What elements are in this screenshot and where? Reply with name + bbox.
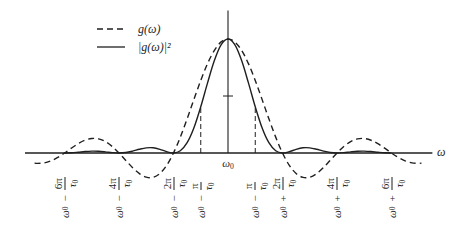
numerator: 6π [52, 177, 65, 190]
fraction: πτ0 [243, 182, 268, 190]
x-tick-label-text: ω0 − 2πτ0 [161, 177, 186, 218]
x-tick-label-text: ω0 − πτ0 [243, 182, 268, 218]
fraction: πτ0 [188, 182, 213, 190]
operator: + [332, 195, 343, 201]
tau-symbol: τ [392, 184, 404, 188]
numerator: π [243, 182, 256, 190]
x-tick-label-text: ω0 + 6πτ0 [379, 177, 404, 218]
tau-symbol: τ [338, 184, 350, 188]
omega-symbol: ω [386, 210, 397, 218]
numerator: 2π [161, 177, 174, 190]
legend-label-g: g(ω) [138, 22, 160, 36]
operator: − [114, 195, 125, 201]
denominator: τ0 [256, 182, 268, 190]
tau-symbol: τ [283, 184, 295, 188]
numerator: 6π [379, 177, 392, 190]
subscript: 0 [343, 180, 352, 184]
omega-symbol: ω [222, 157, 230, 169]
denominator: τ0 [65, 180, 77, 188]
x-tick-label-text: ω0 − 6πτ0 [52, 177, 77, 218]
numerator: 2π [270, 177, 283, 190]
omega-symbol: ω [114, 210, 125, 218]
omega-symbol: ω [195, 210, 206, 218]
tau-symbol: τ [256, 186, 268, 190]
tau-symbol: τ [201, 186, 213, 190]
fraction: 6πτ0 [52, 177, 77, 190]
omega-symbol: ω [332, 210, 343, 218]
operator: + [277, 195, 288, 201]
denominator: τ0 [174, 180, 186, 188]
figure: g(ω) |g(ω)|² ω ω0 ω0 − 6πτ0 ω0 − 4πτ0 ω0… [0, 0, 464, 231]
tau-symbol: τ [174, 184, 186, 188]
omega-symbol: ω [168, 210, 179, 218]
x-axis-label: ω [437, 146, 445, 158]
omega-symbol: ω [59, 210, 70, 218]
fraction: 4πτ0 [107, 177, 132, 190]
subscript: 0 [230, 162, 234, 171]
operator: − [250, 195, 261, 201]
omega-symbol: ω [250, 210, 261, 218]
tau-symbol: τ [120, 184, 132, 188]
denominator: τ0 [120, 180, 132, 188]
fraction: 6πτ0 [379, 177, 404, 190]
x-tick-label-text: ω0 − πτ0 [188, 182, 213, 218]
denominator: τ0 [201, 182, 213, 190]
fraction: 2πτ0 [270, 177, 295, 190]
center-tick-label: ω0 [222, 157, 234, 169]
subscript: 0 [125, 180, 134, 184]
fraction: 4πτ0 [325, 177, 350, 190]
denominator: τ0 [338, 180, 350, 188]
denominator: τ0 [283, 180, 295, 188]
subscript: 0 [288, 180, 297, 184]
tau-symbol: τ [65, 184, 77, 188]
operator: − [195, 195, 206, 201]
legend-label-g-squared: |g(ω)|² [138, 40, 171, 54]
denominator: τ0 [392, 180, 404, 188]
subscript: 0 [207, 182, 216, 186]
x-tick-label-text: ω0 + 2πτ0 [270, 177, 295, 218]
x-tick-label-text: ω0 − 4πτ0 [107, 177, 132, 218]
operator: + [386, 195, 397, 201]
numerator: π [188, 182, 201, 190]
operator: − [59, 195, 70, 201]
subscript: 0 [397, 180, 406, 184]
fraction: 2πτ0 [161, 177, 186, 190]
numerator: 4π [325, 177, 338, 190]
operator: − [168, 195, 179, 201]
x-tick-label-text: ω0 + 4πτ0 [325, 177, 350, 218]
subscript: 0 [70, 180, 79, 184]
omega-symbol: ω [277, 210, 288, 218]
numerator: 4π [107, 177, 120, 190]
